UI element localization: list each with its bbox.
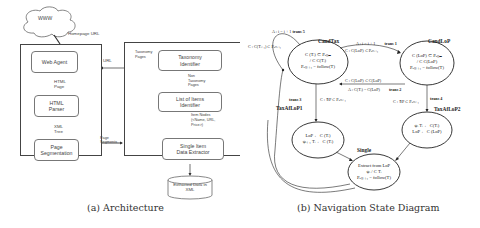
state-candlop-name: CandLoP <box>428 38 450 44</box>
state-diagram-caption: (b) Navigation State Diagram <box>297 202 439 213</box>
state-taxaflop2-name: TaxAfLoP2 <box>434 106 460 112</box>
state-taxaflop1-text: LoP ← C (Tᵢ) ψᵢ₊₁ Tᵢ ← C (Tᵢ) <box>294 133 342 145</box>
trans2-action: A : C(Tᵢ) = C(LoP) trans 2 <box>348 87 401 92</box>
trans4-condition: C : ∃P ⊂ Pₐₜₜᵢ₊₁ <box>393 99 419 104</box>
state-taxaflop2-text: ψᵢ Tᵢ ← C(Tᵢ) LoP ← C (LoP) <box>404 123 450 135</box>
state-candtax-text: C (Tᵢ) ⊂ Pₐₜₜₘ / C C(Tᵢ) Pₐₜₜᵢ₊₁ = follo… <box>290 52 346 70</box>
state-diagram-edges <box>0 0 480 228</box>
state-single-text: Extract from LoP ψᵢ / C Tᵢ Pₐₜₜᵢ₊₁ = fol… <box>350 163 398 181</box>
trans3-label: trans 3 <box>289 97 301 102</box>
trans1-action: A : i = i + 1 trans 1 <box>356 41 397 46</box>
trans5-action: A : i = i + 1 trans 5 <box>272 29 305 34</box>
trans3-condition: C : ∃P ⊂ Pₐₜₜᵢ₊₁ <box>320 97 346 102</box>
trans2-condition: C : C(LoP) ⊂ C(LoP) <box>345 78 381 83</box>
state-single-name: Single <box>357 147 371 153</box>
trans1-condition: C : C(LoP) ⊂ Pₐₜₜᵢ₊₁ <box>345 48 378 53</box>
state-taxaflop1-name: TaxAfLoP1 <box>276 105 302 111</box>
trans5-condition: C : C(Tᵢ₊₁) ⊂ Pₐₜₜᵢ₊₁ <box>248 44 281 49</box>
trans4-label: trans 4 <box>430 96 442 101</box>
state-candlop-text: C (LoP) ⊂ Pₐₜₜₘ / C C(LoP) Pₐₜₜᵢ₊₁ = fol… <box>401 53 453 71</box>
state-candtax-name: CandTax <box>318 38 339 44</box>
